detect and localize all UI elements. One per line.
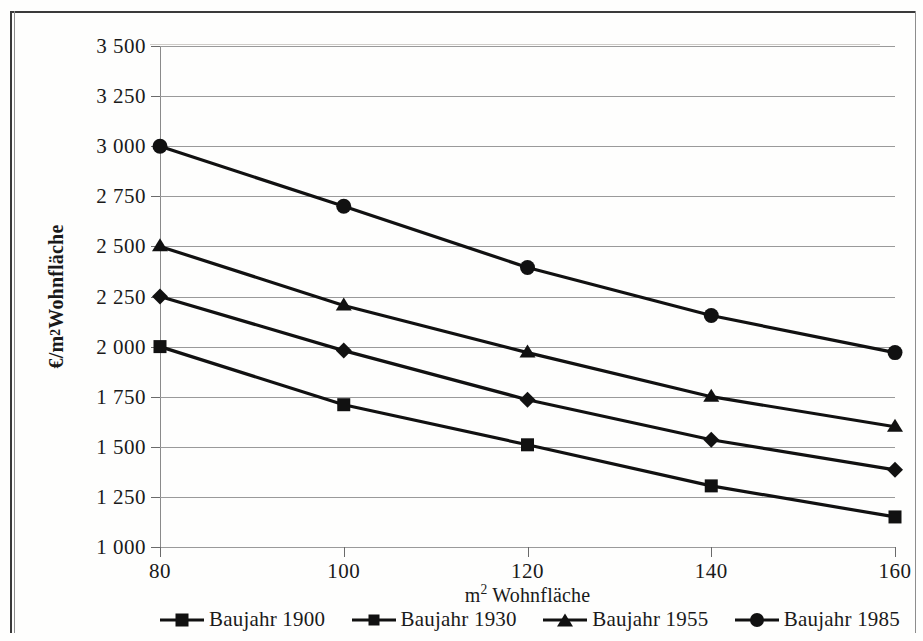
line-chart: €/m2 Wohnfläche 3 5003 2503 0002 7502 50… [0, 0, 923, 641]
x-axis-tick-label: 100 [327, 561, 360, 582]
y-axis-tick-mark [151, 547, 160, 548]
legend-item[interactable]: Baujahr 1930 [352, 607, 517, 632]
circle-marker [520, 260, 535, 275]
square-marker [889, 510, 902, 523]
x-axis-tick-mark [711, 547, 712, 557]
x-axis-tick-mark [528, 547, 529, 557]
plot-area: 3 5003 2503 0002 7502 5002 2502 0001 750… [160, 46, 895, 547]
legend-label: Baujahr 1985 [784, 607, 900, 632]
diamond-marker [887, 462, 903, 478]
series-line [160, 347, 895, 517]
square-marker [337, 398, 350, 411]
square-marker [705, 479, 718, 492]
legend-swatch-diamond [352, 612, 396, 628]
y-axis-tick-label: 1 750 [96, 386, 146, 407]
chart-legend: Baujahr 1900Baujahr 1930Baujahr 1955Bauj… [160, 607, 900, 632]
legend-swatch-circle [735, 612, 779, 628]
legend-label: Baujahr 1900 [209, 607, 325, 632]
triangle-marker-icon [557, 613, 573, 626]
x-axis-title-prefix: m [465, 584, 481, 606]
y-axis-tick-mark [151, 96, 160, 97]
y-axis-tick-label: 2 500 [96, 236, 146, 257]
legend-swatch-square [160, 612, 204, 628]
diamond-marker [703, 432, 719, 448]
y-axis-tick-mark [151, 497, 160, 498]
y-axis-tick-label: 1 000 [96, 537, 146, 558]
x-axis-tick-label: 140 [695, 561, 728, 582]
diamond-marker [520, 392, 536, 408]
triangle-marker [152, 238, 168, 251]
y-axis-tick-label: 3 000 [96, 136, 146, 157]
x-axis-title-suffix: Wohnfläche [487, 584, 590, 606]
square-marker-icon [176, 613, 189, 626]
x-axis-tick-mark [344, 547, 345, 557]
y-axis-title-suffix: Wohnfläche [45, 224, 68, 328]
legend-item[interactable]: Baujahr 1955 [543, 607, 708, 632]
y-axis-tick-label: 1 500 [96, 436, 146, 457]
legend-label: Baujahr 1930 [401, 607, 517, 632]
x-axis-tick-mark [895, 547, 896, 557]
legend-item[interactable]: Baujahr 1985 [735, 607, 900, 632]
y-axis-tick-mark [151, 397, 160, 398]
diamond-marker-icon [368, 614, 379, 625]
circle-marker [704, 308, 719, 323]
diamond-marker [152, 289, 168, 305]
square-marker [521, 438, 534, 451]
circle-marker-icon [750, 613, 764, 627]
y-axis-tick-mark [151, 46, 160, 47]
y-axis-tick-label: 3 500 [96, 36, 146, 57]
y-axis-tick-mark [151, 447, 160, 448]
y-axis-tick-label: 2 000 [96, 336, 146, 357]
circle-marker [336, 199, 351, 214]
y-axis-title-prefix: €/m [45, 336, 68, 369]
legend-label: Baujahr 1955 [592, 607, 708, 632]
x-axis-tick-label: 120 [511, 561, 544, 582]
series-layer [160, 46, 895, 547]
legend-item[interactable]: Baujahr 1900 [160, 607, 325, 632]
x-axis-tick-mark [160, 547, 161, 557]
circle-marker [153, 139, 168, 154]
square-marker [154, 340, 167, 353]
y-axis-tick-label: 2 750 [96, 186, 146, 207]
x-axis-tick-label: 160 [879, 561, 912, 582]
page: €/m2 Wohnfläche 3 5003 2503 0002 7502 50… [0, 0, 923, 641]
legend-swatch-triangle [543, 612, 587, 628]
series-square [154, 340, 902, 523]
circle-marker [888, 345, 903, 360]
series-line [160, 146, 895, 352]
y-axis-tick-label: 3 250 [96, 86, 146, 107]
y-axis-title: €/m2 Wohnfläche [42, 46, 70, 547]
x-axis-title: m2 Wohnfläche [160, 584, 895, 607]
diamond-marker [336, 343, 352, 359]
y-axis-tick-label: 2 250 [96, 286, 146, 307]
y-axis-tick-mark [151, 196, 160, 197]
y-axis-tick-label: 1 250 [96, 486, 146, 507]
x-axis-tick-label: 80 [149, 561, 171, 582]
